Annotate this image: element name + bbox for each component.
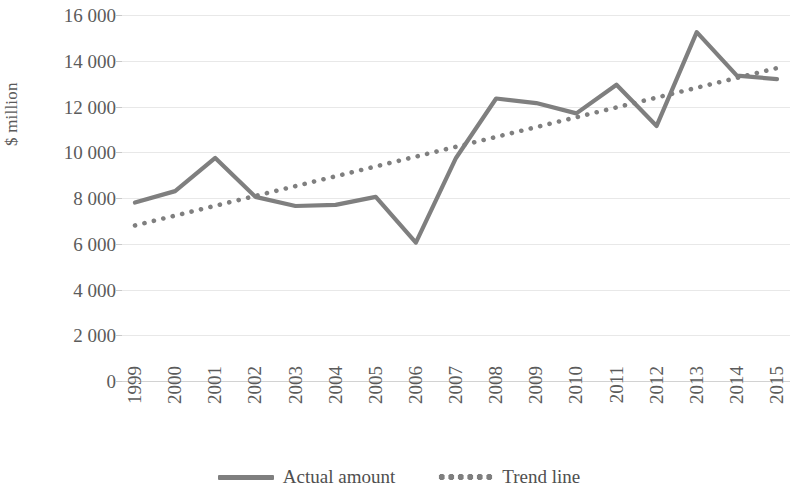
solid-line-swatch-icon xyxy=(218,475,274,480)
y-tick-label: 4 000 xyxy=(22,281,116,300)
y-tick-label: 6 000 xyxy=(22,235,116,254)
x-tick-label: 2005 xyxy=(366,366,386,426)
x-tick-label: 1999 xyxy=(125,366,145,426)
y-tick-label: 0 xyxy=(22,372,116,391)
y-tick-label: 2 000 xyxy=(22,326,116,345)
legend-item[interactable]: Actual amount xyxy=(218,466,395,488)
x-tick-label: 2015 xyxy=(767,366,787,426)
x-tick-label: 2013 xyxy=(687,366,707,426)
series-layer xyxy=(122,10,790,386)
x-tick-label: 2008 xyxy=(486,366,506,426)
line-chart: $ million 02 0004 0006 0008 00010 00012 … xyxy=(0,0,798,493)
x-tick-label: 2003 xyxy=(286,366,306,426)
x-tick-label: 2006 xyxy=(406,366,426,426)
y-tick-label: 16 000 xyxy=(22,6,116,25)
x-tick-label: 2014 xyxy=(727,366,747,426)
chart-legend: Actual amountTrend line xyxy=(0,462,798,492)
plot-area xyxy=(122,10,790,386)
y-tick-label: 14 000 xyxy=(22,52,116,71)
y-tick-label: 10 000 xyxy=(22,143,116,162)
series-line-actual-amount xyxy=(135,32,777,242)
x-tick-label: 2000 xyxy=(165,366,185,426)
x-tick-label: 2002 xyxy=(245,366,265,426)
legend-label: Actual amount xyxy=(283,466,395,488)
x-tick-label: 2010 xyxy=(566,366,586,426)
x-tick-label: 2012 xyxy=(647,366,667,426)
legend-item[interactable]: Trend line xyxy=(437,466,580,488)
x-tick-label: 2011 xyxy=(607,366,627,426)
dotted-line-swatch-icon xyxy=(437,474,493,480)
y-tick-label: 8 000 xyxy=(22,189,116,208)
x-tick-label: 2001 xyxy=(205,366,225,426)
x-axis-tick-labels: 1999200020012002200320042005200620072008… xyxy=(122,386,790,458)
x-tick-label: 2004 xyxy=(326,366,346,426)
series-line-trend-line xyxy=(135,68,777,225)
y-axis-tick-labels: 02 0004 0006 0008 00010 00012 00014 0001… xyxy=(22,0,116,493)
legend-label: Trend line xyxy=(502,466,580,488)
x-tick-label: 2009 xyxy=(526,366,546,426)
x-tick-label: 2007 xyxy=(446,366,466,426)
y-tick-label: 12 000 xyxy=(22,98,116,117)
